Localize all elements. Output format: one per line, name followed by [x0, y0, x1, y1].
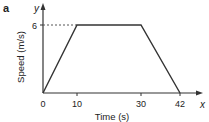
x-tick-label: 10 [72, 99, 82, 109]
y-axis-arrow-icon [41, 3, 46, 10]
x-tick-label: 30 [136, 99, 146, 109]
x-axis-arrow-icon [196, 91, 203, 96]
speed-line [43, 25, 180, 93]
y-axis-title: Speed (m/s) [15, 31, 26, 83]
x-tick-label: 42 [175, 99, 185, 109]
x-axis-title: Time (s) [95, 111, 129, 122]
speed-time-graph: a y x 6 0 10 30 42 Time (s) Speed (m/s) [0, 0, 209, 122]
x-axis-letter: x [199, 99, 206, 110]
x-tick-label: 0 [40, 99, 45, 109]
panel-label: a [3, 2, 10, 14]
y-tick-label: 6 [32, 21, 37, 31]
y-axis-letter: y [33, 3, 40, 14]
